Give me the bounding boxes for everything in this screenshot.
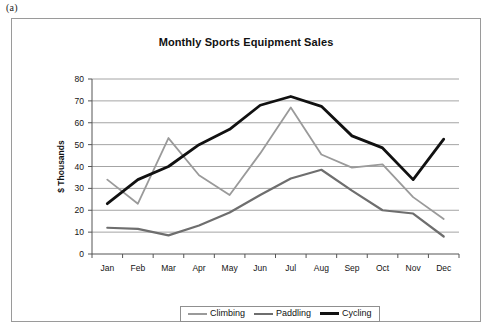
x-tick-label: Jun	[253, 263, 267, 273]
x-tick-label: Dec	[436, 263, 452, 273]
y-axis-ticks: 01020304050607080	[75, 74, 92, 259]
legend-label: Paddling	[276, 309, 311, 318]
series-line-paddling	[107, 170, 443, 237]
legend-item-cycling[interactable]: Cycling	[320, 309, 372, 318]
line-chart: 01020304050607080 JanFebMarAprMayJunJulA…	[12, 19, 482, 323]
x-tick-label: Nov	[406, 263, 422, 273]
x-tick-label: Apr	[192, 263, 205, 273]
y-tick-label: 0	[79, 249, 84, 259]
legend-swatch-cycling	[320, 312, 339, 315]
y-tick-label: 10	[75, 227, 85, 237]
legend-item-paddling[interactable]: Paddling	[254, 309, 311, 318]
x-axis-ticks: JanFebMarAprMayJunJulAugSepOctNovDec	[92, 254, 459, 273]
x-tick-label: Feb	[131, 263, 146, 273]
y-tick-label: 70	[75, 96, 85, 106]
chart-legend: ClimbingPaddlingCycling	[180, 306, 380, 322]
y-tick-label: 80	[75, 74, 85, 84]
legend-label: Climbing	[210, 309, 245, 318]
y-tick-label: 50	[75, 140, 85, 150]
chart-figure-frame: Monthly Sports Equipment Sales 010203040…	[11, 18, 481, 322]
y-tick-label: 40	[75, 162, 85, 172]
x-tick-label: Jan	[100, 263, 114, 273]
x-tick-label: Sep	[344, 263, 359, 273]
y-tick-label: 30	[75, 183, 85, 193]
series-line-climbing	[107, 107, 443, 219]
x-tick-label: Aug	[314, 263, 329, 273]
figure-label: (a)	[6, 2, 18, 13]
legend-swatch-climbing	[188, 313, 207, 315]
y-tick-label: 60	[75, 118, 85, 128]
x-tick-label: Mar	[161, 263, 176, 273]
y-tick-label: 20	[75, 205, 85, 215]
legend-label: Cycling	[342, 309, 372, 318]
y-axis-title: $ Thousands	[56, 140, 66, 193]
legend-swatch-paddling	[254, 313, 273, 315]
x-tick-label: May	[222, 263, 239, 273]
x-tick-label: Oct	[376, 263, 390, 273]
legend-item-climbing[interactable]: Climbing	[188, 309, 245, 318]
x-tick-label: Jul	[285, 263, 296, 273]
